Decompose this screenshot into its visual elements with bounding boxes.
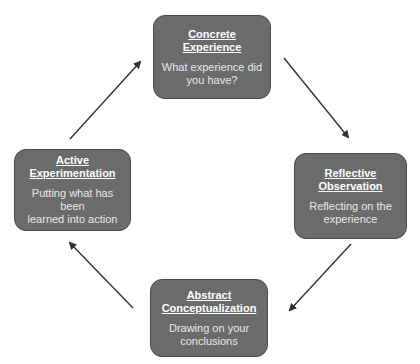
experiential-learning-cycle: Concrete Experience What experience did … — [0, 0, 420, 364]
stage-title-line: Experience — [183, 41, 242, 54]
stage-title-line: Reflective — [318, 167, 382, 180]
stage-description: What experience did you have? — [162, 61, 262, 87]
stage-reflective-observation: Reflective Observation Reflecting on the… — [294, 153, 407, 239]
stage-title-line: Concrete — [183, 28, 242, 41]
stage-description: Reflecting on the experience — [309, 200, 392, 226]
stage-title: Concrete Experience — [183, 28, 242, 54]
stage-desc-line: Reflecting on the — [309, 200, 392, 213]
stage-desc-line: Putting what has been — [21, 187, 124, 213]
stage-title-line: Abstract — [162, 289, 257, 302]
stage-desc-line: conclusions — [169, 335, 249, 348]
stage-title-line: Conceptualization — [162, 302, 257, 315]
stage-active-experimentation: Active Experimentation Putting what has … — [14, 149, 131, 231]
stage-description: Putting what has been learned into actio… — [21, 187, 124, 226]
stage-abstract-conceptualization: Abstract Conceptualization Drawing on yo… — [150, 279, 268, 357]
stage-description: Drawing on your conclusions — [169, 322, 249, 348]
arrow-active-to-concrete — [70, 62, 140, 139]
stage-desc-line: you have? — [162, 74, 262, 87]
stage-desc-line: What experience did — [162, 61, 262, 74]
arrow-abstract-to-active — [70, 243, 133, 308]
stage-title: Reflective Observation — [318, 167, 382, 193]
stage-title: Active Experimentation — [29, 154, 115, 180]
arrow-concrete-to-reflective — [284, 58, 348, 137]
stage-desc-line: experience — [309, 213, 392, 226]
stage-title-line: Observation — [318, 180, 382, 193]
stage-title-line: Experimentation — [29, 167, 115, 180]
arrow-reflective-to-abstract — [290, 244, 351, 310]
stage-desc-line: learned into action — [21, 213, 124, 226]
stage-title-line: Active — [29, 154, 115, 167]
stage-title: Abstract Conceptualization — [162, 289, 257, 315]
stage-desc-line: Drawing on your — [169, 322, 249, 335]
stage-concrete-experience: Concrete Experience What experience did … — [153, 15, 271, 99]
